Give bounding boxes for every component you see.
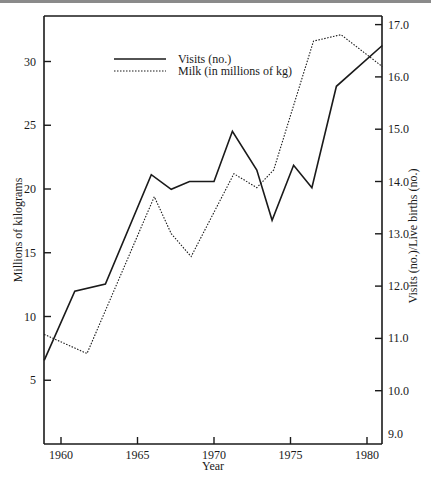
x-tick-label: 1960 — [49, 448, 73, 462]
y-right-tick-label: 17.0 — [388, 18, 409, 32]
y-right-tick-label: 11.0 — [388, 331, 409, 345]
milk-line — [44, 35, 382, 354]
visits-line — [44, 46, 382, 361]
y-right-axis-title: Visits (no.)/Live births (no.) — [406, 169, 420, 304]
y-left-tick-label: 30 — [24, 55, 36, 69]
y-right-tick-label: 15.0 — [388, 122, 409, 136]
y-right-tick-label: 9.0 — [388, 427, 403, 441]
y-left-axis-title: Millions of kilograms — [11, 177, 25, 282]
legend: Visits (no.) Milk (in millions of kg) — [114, 52, 292, 78]
plot-frame — [44, 16, 382, 444]
y-right-tick-label: 10.0 — [388, 384, 409, 398]
y-left-ticks: 51015202530 — [24, 55, 51, 388]
x-tick-label: 1965 — [126, 448, 150, 462]
y-left-tick-label: 20 — [24, 182, 36, 196]
series-lines — [44, 35, 382, 361]
chart: 19601965197019751980 51015202530 9.010.0… — [0, 0, 431, 484]
y-left-tick-label: 5 — [30, 373, 36, 387]
x-tick-label: 1975 — [279, 448, 303, 462]
x-tick-label: 1980 — [355, 448, 379, 462]
x-axis-title: Year — [202, 459, 224, 473]
y-left-tick-label: 25 — [24, 118, 36, 132]
y-right-ticks: 9.010.011.012.013.014.015.016.017.0 — [375, 18, 409, 441]
y-right-tick-label: 16.0 — [388, 70, 409, 84]
legend-label-milk: Milk (in millions of kg) — [178, 64, 292, 78]
y-left-tick-label: 15 — [24, 246, 36, 260]
y-left-tick-label: 10 — [24, 310, 36, 324]
